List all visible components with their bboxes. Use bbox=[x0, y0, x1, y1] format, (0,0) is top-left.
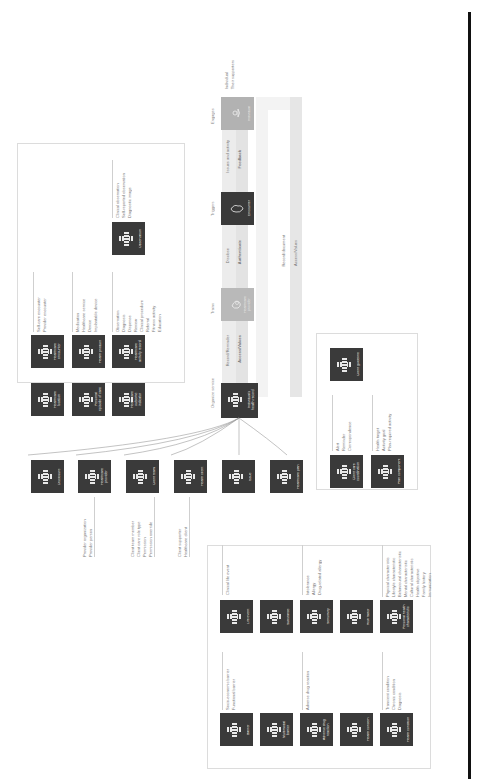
node-issue[interactable]: Issue bbox=[222, 460, 255, 493]
node-health-concern[interactable]: Health concern bbox=[340, 713, 373, 746]
node-health-product[interactable]: Health product bbox=[72, 335, 105, 368]
health-cross-icon bbox=[229, 469, 244, 484]
list-adverse-reactions: Adverse drug reaction bbox=[302, 652, 311, 710]
health-cross-icon bbox=[79, 344, 94, 359]
list-plan-components: Health targetActivity goalPlan-required … bbox=[372, 395, 393, 451]
node-healthcare-encounter[interactable]: Healthcare encounter bbox=[31, 335, 64, 368]
list-coordination: AlertReminderCorrespondence bbox=[332, 395, 353, 451]
node-client-team[interactable]: Client team bbox=[126, 460, 159, 493]
node-observation[interactable]: Observation bbox=[112, 222, 145, 255]
node-personal-health-characteristic[interactable]: Personal health characteristic bbox=[380, 600, 413, 633]
list-health-client: Client supporterHealthcare client bbox=[175, 497, 190, 557]
list-life-events: Clinical life event bbox=[222, 545, 231, 595]
node-healthcare-location[interactable]: Healthcare location bbox=[31, 383, 64, 416]
node-personal-episode-of-care[interactable]: Personal episode of care bbox=[72, 383, 105, 416]
node-disclosure[interactable]: Disclosure bbox=[31, 460, 64, 493]
list-provider-types: Provider organizationProvider person bbox=[80, 497, 95, 557]
node-healthcare-provider[interactable]: Healthcare provider bbox=[78, 460, 111, 493]
list-activity-records: ObservationDiagnosisDispenseReviewClinic… bbox=[112, 272, 163, 332]
health-cross-icon bbox=[378, 464, 393, 479]
node-adverse-drug-reaction[interactable]: Adverse drug reaction bbox=[300, 713, 333, 746]
health-cross-icon bbox=[227, 722, 242, 737]
node-barrier[interactable]: Barrier bbox=[220, 713, 253, 746]
health-cross-icon bbox=[38, 469, 53, 484]
list-health-products: MedicationHealthcare serviceDeviceImplan… bbox=[72, 272, 99, 332]
node-health-condition[interactable]: Health condition bbox=[380, 713, 413, 746]
list-sensitivities: IntoleranceAllergyDrug-related allergy bbox=[302, 545, 323, 595]
health-cross-icon bbox=[307, 609, 322, 624]
node-client-care-coordination[interactable]: Client care coordination bbox=[330, 455, 363, 488]
list-health-conditions: Transient conditionChronic conditionDiag… bbox=[382, 652, 403, 710]
node-healthcare-plan[interactable]: Healthcare plan bbox=[270, 460, 303, 493]
node-healthcare-activity-record[interactable]: Healthcare activity record bbox=[112, 335, 145, 368]
node-plan-component[interactable]: Plan component bbox=[371, 455, 404, 488]
health-cross-icon bbox=[337, 357, 352, 372]
health-cross-icon bbox=[119, 231, 134, 246]
health-cross-icon bbox=[337, 464, 352, 479]
health-cross-icon bbox=[307, 722, 322, 737]
health-cross-icon bbox=[85, 469, 100, 484]
node-sensitivity[interactable]: Sensitivity bbox=[300, 600, 333, 633]
list-encounter-types: Self-care encounterProvider encounter bbox=[33, 272, 48, 332]
health-cross-icon bbox=[267, 609, 282, 624]
health-cross-icon bbox=[79, 392, 94, 407]
node-client-guideline[interactable]: Client guideline bbox=[330, 348, 363, 381]
health-cross-icon bbox=[119, 344, 134, 359]
health-cross-icon bbox=[347, 609, 362, 624]
health-cross-icon bbox=[181, 469, 196, 484]
list-health-characteristics: Physical characteristicLifestyle charact… bbox=[382, 545, 433, 597]
health-cross-icon bbox=[387, 722, 402, 737]
node-risk-factor[interactable]: Risk factor bbox=[340, 600, 373, 633]
node-substance[interactable]: Substance bbox=[260, 600, 293, 633]
node-multimodal-barrier[interactable]: Multimodal barrier bbox=[260, 713, 293, 746]
health-cross-icon bbox=[347, 722, 362, 737]
health-cross-icon bbox=[38, 344, 53, 359]
health-cross-icon bbox=[267, 722, 282, 737]
health-cross-icon bbox=[387, 609, 402, 624]
list-observation-types: Clinical observationSelf-reported observ… bbox=[112, 160, 133, 218]
node-health-client[interactable]: Health client bbox=[174, 460, 207, 493]
health-cross-icon bbox=[133, 469, 148, 484]
list-barriers: Socio-economic barrierFunctional barrier bbox=[222, 652, 237, 710]
list-client-team: Client team memberClient care role typeP… bbox=[128, 497, 155, 557]
node-healthcare-outcome-indicator[interactable]: Healthcare outcome indicator bbox=[112, 383, 145, 416]
health-cross-icon bbox=[277, 469, 292, 484]
health-cross-icon bbox=[38, 392, 53, 407]
node-life-event[interactable]: Life event bbox=[220, 600, 253, 633]
health-cross-icon bbox=[227, 609, 242, 624]
